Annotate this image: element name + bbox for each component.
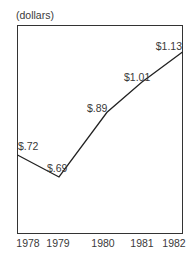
x-tick-label: 1979 — [46, 237, 70, 249]
x-tick-label: 1981 — [130, 237, 154, 249]
x-tick-label: 1980 — [91, 237, 115, 249]
x-tick-label: 1978 — [16, 237, 40, 249]
line-chart: (dollars) $.72$.69$.89$1.01$1.13 1978197… — [0, 0, 196, 260]
data-line — [18, 52, 183, 177]
data-label: $.69 — [47, 162, 68, 174]
data-label: $1.01 — [124, 71, 150, 83]
data-label: $1.13 — [156, 40, 182, 52]
data-label: $.72 — [18, 140, 39, 152]
x-axis-tick-labels: 19781979198019811982 — [16, 237, 186, 249]
data-label: $.89 — [87, 102, 108, 114]
y-axis-unit-label: (dollars) — [16, 9, 54, 21]
x-tick-label: 1982 — [162, 237, 186, 249]
data-labels: $.72$.69$.89$1.01$1.13 — [18, 40, 182, 174]
plot-frame — [18, 26, 183, 234]
